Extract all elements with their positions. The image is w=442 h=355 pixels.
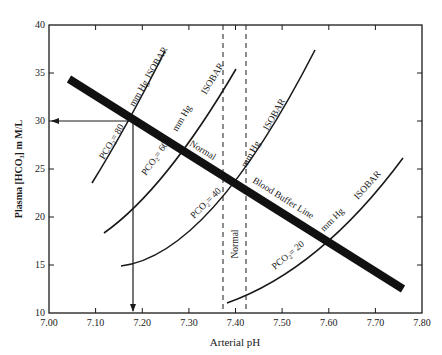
isobar-label: ISOBAR bbox=[143, 44, 170, 80]
isobar-label: ISOBAR bbox=[352, 168, 383, 201]
isobar-label: ISOBAR bbox=[199, 60, 226, 96]
y-tick-label: 25 bbox=[35, 163, 45, 174]
y-tick-label: 20 bbox=[35, 211, 45, 222]
y-tick-label: 15 bbox=[35, 259, 45, 270]
pco2-80-label: PCO₂= 80 bbox=[97, 122, 126, 161]
isobar-label: ISOBAR bbox=[261, 96, 287, 132]
x-tick-label: 7.10 bbox=[87, 317, 105, 328]
y-axis-title: Plasma [HCO₃] m M/L bbox=[13, 120, 24, 219]
x-axis-title: Arterial pH bbox=[210, 336, 260, 348]
x-tick-label: 7.50 bbox=[273, 317, 291, 328]
acid-base-chart: 7.00 7.10 7.20 7.30 7.40 7.50 7.60 7.70 … bbox=[0, 0, 442, 355]
x-tick-label: 7.00 bbox=[40, 317, 58, 328]
x-tick-label: 7.30 bbox=[180, 317, 198, 328]
normal-band-label: Normal bbox=[230, 229, 240, 258]
x-tick-label: 7.60 bbox=[320, 317, 338, 328]
label-pco2-40: PCO₂= 40 mm Hg ISOBAR bbox=[188, 96, 287, 220]
mmhg-label: mm Hg bbox=[127, 78, 151, 108]
x-tick-label: 7.40 bbox=[227, 317, 245, 328]
x-tick-labels: 7.00 7.10 7.20 7.30 7.40 7.50 7.60 7.70 … bbox=[40, 317, 431, 328]
y-tick-label: 40 bbox=[35, 19, 45, 30]
pco2-60-label: PCO₂= 60 bbox=[139, 139, 170, 177]
y-tick-label: 35 bbox=[35, 67, 45, 78]
x-ticks bbox=[96, 25, 376, 313]
x-tick-label: 7.70 bbox=[367, 317, 385, 328]
y-tick-label: 30 bbox=[35, 115, 45, 126]
pco2-20-label: PCO₂= 20 bbox=[270, 239, 307, 272]
mmhg-label: mm Hg bbox=[239, 139, 262, 169]
mmhg-label: mm Hg bbox=[170, 103, 194, 133]
x-tick-label: 7.80 bbox=[413, 317, 431, 328]
x-tick-label: 7.20 bbox=[134, 317, 152, 328]
y-tick-label: 10 bbox=[35, 307, 45, 318]
isobar-pco2-60 bbox=[104, 69, 236, 233]
y-tick-labels: 10 15 20 25 30 35 40 bbox=[35, 19, 45, 318]
